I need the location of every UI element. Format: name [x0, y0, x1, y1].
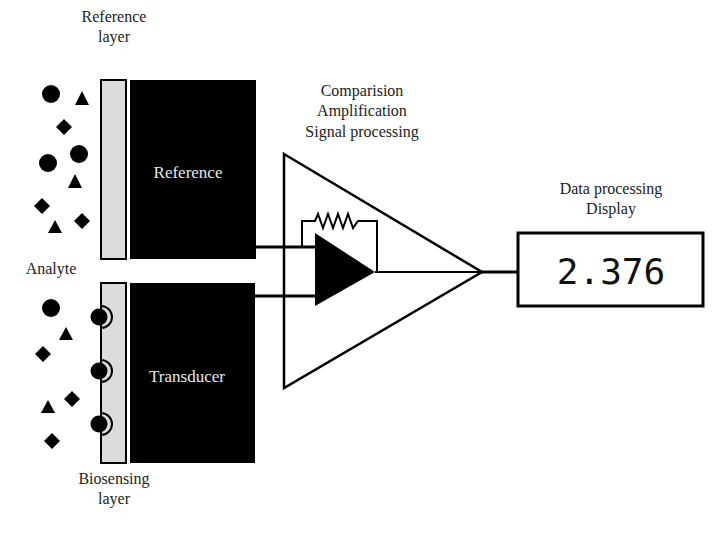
biosensor-diagram: Reference layer Reference Analyte Transd…: [0, 0, 724, 534]
diagram-svg: Reference layer Reference Analyte Transd…: [0, 0, 724, 534]
analyte-diamond-icon: [34, 198, 50, 214]
analyte-group-top: [34, 85, 90, 233]
analyte-circle-icon: [42, 299, 60, 317]
bound-analyte-circle-icon: [91, 363, 108, 380]
analyte-group-bottom: [35, 299, 80, 449]
output-label-line2: Display: [586, 200, 636, 218]
analyte-circle-icon: [39, 154, 57, 172]
bound-analyte-circle-icon: [91, 416, 108, 433]
display-value: 2.376: [557, 251, 665, 292]
reference-block-label: Reference: [154, 163, 223, 182]
analyte-diamond-icon: [56, 119, 72, 135]
biosensing-layer-label-line1: Biosensing: [78, 470, 149, 488]
reference-layer-label-line1: Reference: [82, 8, 147, 25]
biosensing-layer-label-line2: layer: [98, 490, 131, 508]
analyte-triangle-icon: [48, 220, 62, 233]
analyte-label: Analyte: [26, 260, 77, 278]
processing-label-line3: Signal processing: [305, 123, 418, 141]
reference-layer: [101, 80, 126, 259]
processing-label-line1: Comparision: [321, 82, 404, 100]
processing-label-line2: Amplification: [317, 102, 407, 120]
op-amp-icon: [315, 233, 375, 306]
analyte-diamond-icon: [44, 433, 60, 449]
transducer-block-label: Transducer: [149, 367, 225, 386]
reference-layer-label-line2: layer: [98, 28, 131, 46]
bound-analyte-circle-icon: [91, 309, 108, 326]
analyte-circle-icon: [42, 85, 60, 103]
output-label-line1: Data processing: [560, 180, 663, 198]
analyte-diamond-icon: [74, 213, 90, 229]
analyte-circle-icon: [70, 145, 88, 163]
analyte-triangle-icon: [59, 327, 73, 340]
analyte-triangle-icon: [68, 174, 82, 188]
analyte-diamond-icon: [64, 391, 80, 407]
analyte-diamond-icon: [35, 346, 51, 362]
analyte-triangle-icon: [75, 91, 89, 105]
analyte-triangle-icon: [41, 400, 55, 413]
